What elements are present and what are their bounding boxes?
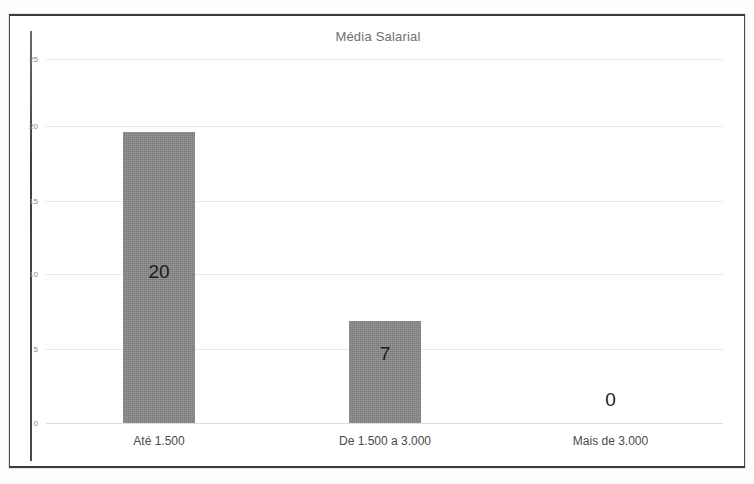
- y-tick-label: 5: [34, 345, 38, 354]
- bar-value-label: 0: [605, 389, 616, 411]
- bar-de-1500-a-3000[interactable]: [349, 321, 421, 423]
- gridline-0-baseline: 0: [46, 423, 723, 424]
- category-label-mais-de-3000: Mais de 3.000: [573, 434, 648, 448]
- bar-series: 20 Até 1.500 7 De 1.500 a 3.000 0 Mais d…: [46, 59, 723, 423]
- bar-group-ate-1500: 20 Até 1.500: [46, 59, 272, 423]
- y-tick-label: 20: [29, 122, 38, 131]
- bar-group-mais-de-3000: 0 Mais de 3.000: [498, 59, 723, 423]
- category-label-de-1500-a-3000: De 1.500 a 3.000: [339, 434, 431, 448]
- y-tick-label: 25: [29, 55, 38, 64]
- scanned-page: Média Salarial 25 20 15 10 5 0: [0, 0, 754, 484]
- category-label-ate-1500: Até 1.500: [133, 434, 184, 448]
- y-tick-label: 10: [29, 270, 38, 279]
- chart-title: Média Salarial: [10, 29, 746, 44]
- chart-frame: Média Salarial 25 20 15 10 5 0: [9, 14, 745, 468]
- y-axis-spine: [30, 31, 32, 461]
- y-tick-label: 0: [34, 419, 38, 428]
- bar-value-label: 20: [148, 261, 169, 283]
- bar-value-label: 7: [380, 343, 391, 365]
- y-tick-label: 15: [29, 197, 38, 206]
- plot-area: 25 20 15 10 5 0 20 Até 1.: [46, 59, 723, 423]
- bar-group-de-1500-a-3000: 7 De 1.500 a 3.000: [272, 59, 498, 423]
